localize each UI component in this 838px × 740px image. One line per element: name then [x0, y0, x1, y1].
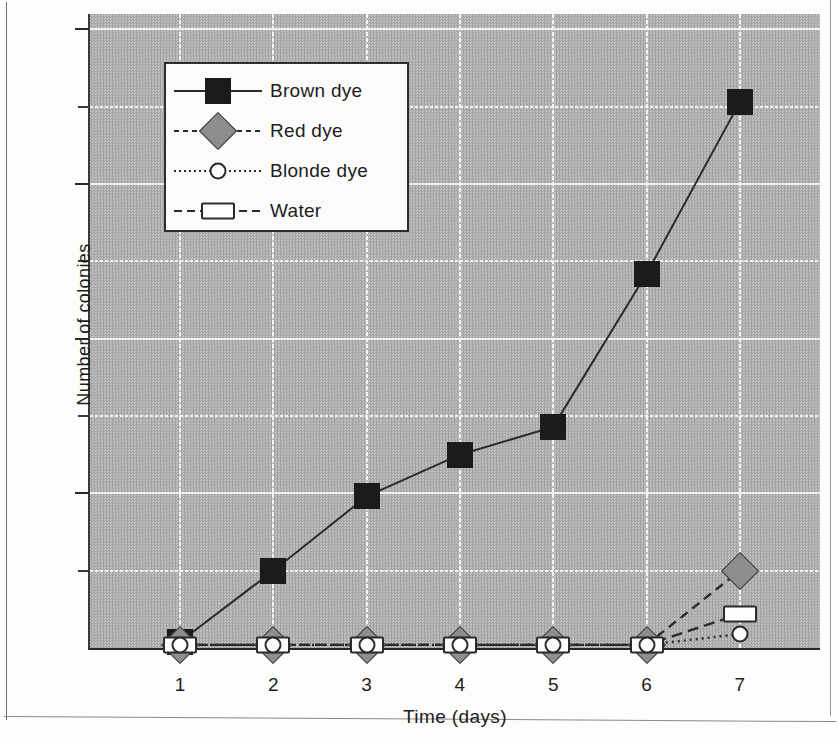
chart-legend: Brown dyeRed dyeBlonde dyeWater [164, 62, 409, 232]
legend-sample [166, 190, 270, 232]
legend-item-water: Water [166, 190, 411, 232]
data-point-marker [731, 626, 748, 643]
gray-diamond-marker [199, 112, 237, 150]
legend-label: Brown dye [270, 80, 362, 102]
open-rectangle-marker [201, 203, 235, 220]
x-tick-label: 6 [627, 674, 667, 696]
data-point-marker [354, 483, 380, 509]
scan-frame-left-border [6, 2, 7, 720]
x-tick-label: 4 [440, 674, 480, 696]
legend-item-brown-dye: Brown dye [166, 70, 411, 112]
chart-figure: 10203040 1234567 Brown dyeRed dyeBlonde … [0, 0, 838, 740]
x-tick-label: 1 [160, 674, 200, 696]
y-axis-title: Number of colonies [74, 45, 95, 605]
data-point-marker [265, 636, 282, 653]
legend-sample [166, 110, 270, 152]
data-point-marker [634, 261, 660, 287]
open-circle-marker [210, 163, 227, 180]
x-axis-title: Time (days) [90, 706, 820, 728]
data-point-marker [358, 636, 375, 653]
legend-item-red-dye: Red dye [166, 110, 411, 152]
legend-label: Red dye [270, 120, 343, 142]
x-tick-label: 7 [720, 674, 760, 696]
filled-square-marker [205, 78, 231, 104]
scan-frame-right-border [830, 0, 831, 716]
x-tick-label: 2 [253, 674, 293, 696]
legend-sample [166, 150, 270, 192]
y-tick-major [75, 28, 89, 30]
data-point-marker [723, 605, 757, 622]
legend-label: Blonde dye [270, 160, 368, 182]
data-point-marker [638, 636, 655, 653]
legend-sample [166, 70, 270, 112]
data-point-marker [172, 636, 189, 653]
data-point-marker [727, 89, 753, 115]
data-point-marker [545, 636, 562, 653]
data-point-marker [451, 636, 468, 653]
x-tick-label: 3 [347, 674, 387, 696]
data-point-marker [447, 442, 473, 468]
legend-item-blonde-dye: Blonde dye [166, 150, 411, 192]
plot-area: 10203040 1234567 Brown dyeRed dyeBlonde … [88, 14, 820, 650]
x-tick-label: 5 [533, 674, 573, 696]
legend-label: Water [270, 200, 321, 222]
data-point-marker [260, 558, 286, 584]
data-point-marker [540, 414, 566, 440]
